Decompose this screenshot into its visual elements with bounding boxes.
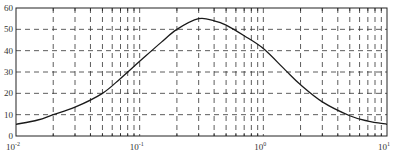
y-tick-label: 20: [4, 88, 14, 98]
y-tick-label: 30: [4, 67, 14, 77]
y-tick-label: 40: [4, 46, 14, 56]
x-tick-label: 101: [378, 141, 390, 152]
grid-lines: [16, 8, 387, 136]
x-tick-label: 10-1: [130, 141, 144, 152]
x-axis-tick-labels: 10-210-1100101: [6, 141, 390, 152]
y-tick-label: 50: [4, 24, 14, 34]
y-tick-label: 60: [4, 3, 14, 13]
y-axis-tick-labels: 0102030405060: [4, 3, 14, 141]
y-tick-label: 10: [4, 110, 14, 120]
y-tick-label: 0: [9, 131, 14, 141]
data-line: [16, 18, 387, 124]
x-tick-label: 100: [254, 141, 266, 152]
line-chart: 0102030405060 10-210-1100101: [0, 0, 394, 155]
x-tick-label: 10-2: [6, 141, 20, 152]
